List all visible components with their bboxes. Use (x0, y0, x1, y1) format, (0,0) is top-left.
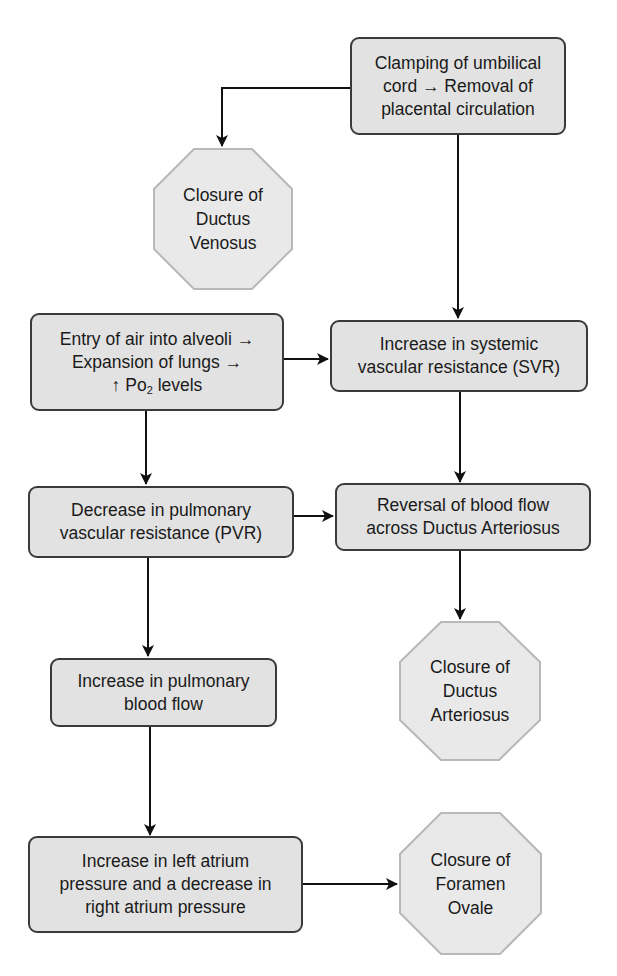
node-text-line: Reversal of blood flow (366, 494, 560, 517)
node-text-line: Closure of (430, 655, 510, 679)
node-text-line: placental circulation (375, 98, 541, 121)
node-text-line: right atrium pressure (59, 896, 271, 919)
node-text-line: Increase in left atrium (59, 850, 271, 873)
node-text-line: ↑ Po2 levels (60, 374, 255, 397)
node-increase-svr: Increase in systemic vascular resistance… (330, 320, 588, 392)
node-closure-ductus-venosus: Closure of Ductus Venosus (153, 148, 293, 290)
node-text-line: Closure of (431, 848, 511, 872)
po2-label: ↑ Po (112, 375, 147, 395)
node-text-line: Entry of air into alveoli → (60, 328, 255, 351)
node-text-line: Expansion of lungs → (60, 351, 255, 374)
node-air-entry-alveoli: Entry of air into alveoli → Expansion of… (30, 313, 284, 411)
node-text-line: Ductus (183, 207, 263, 231)
node-text-line: Venosus (183, 231, 263, 255)
node-text-line: vascular resistance (PVR) (60, 522, 262, 545)
levels-label: levels (153, 375, 203, 395)
node-text-line: Increase in systemic (358, 333, 560, 356)
node-atrium-pressure: Increase in left atrium pressure and a d… (28, 836, 303, 933)
node-text-line: Ductus (430, 679, 510, 703)
node-text-line: Foramen (431, 872, 511, 896)
node-text-line: cord → Removal of (375, 75, 541, 98)
node-closure-foramen-ovale: Closure of Foramen Ovale (399, 812, 542, 955)
node-text-line: Clamping of umbilical (375, 52, 541, 75)
node-decrease-pvr: Decrease in pulmonary vascular resistanc… (28, 486, 294, 558)
node-text-line: Decrease in pulmonary (60, 499, 262, 522)
node-text-line: blood flow (77, 693, 249, 716)
node-closure-ductus-arteriosus: Closure of Ductus Arteriosus (399, 621, 541, 761)
node-text-line: across Ductus Arteriosus (366, 517, 560, 540)
node-text-line: Increase in pulmonary (77, 670, 249, 693)
node-text-line: Ovale (431, 896, 511, 920)
node-text-line: pressure and a decrease in (59, 873, 271, 896)
node-increase-pulmonary-blood-flow: Increase in pulmonary blood flow (50, 658, 277, 727)
node-reversal-blood-flow: Reversal of blood flow across Ductus Art… (335, 483, 591, 551)
node-text-line: Arteriosus (430, 703, 510, 727)
node-clamping-umbilical-cord: Clamping of umbilical cord → Removal of … (350, 37, 566, 135)
node-text-line: vascular resistance (SVR) (358, 356, 560, 379)
node-text-line: Closure of (183, 183, 263, 207)
